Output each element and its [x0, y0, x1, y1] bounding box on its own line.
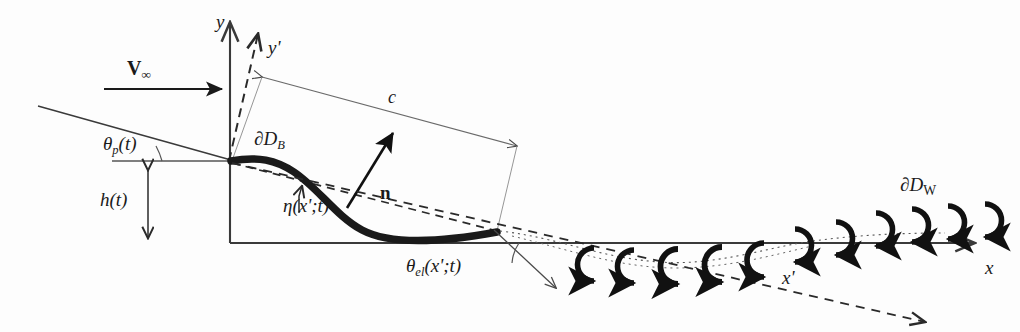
diagram-svg: [0, 0, 1020, 332]
chord-dimension-group: [233, 77, 517, 231]
pitch-angle-arc: [156, 146, 162, 161]
vortex-lower-5: [747, 243, 764, 277]
vortex-lower-4: [705, 247, 722, 282]
wake-centerline-group: [500, 231, 945, 268]
mean-chord-line-group: [232, 163, 497, 231]
x-prime-axis-label: x': [782, 268, 795, 287]
x-axis-label: x: [985, 258, 993, 277]
vortex-lower-3: [660, 249, 678, 284]
chord-length-label: c: [388, 88, 396, 106]
plunge-label: h(t): [100, 190, 127, 209]
body-boundary-label: ∂DB: [254, 129, 285, 152]
normal-vector-label: n: [380, 183, 391, 202]
vortex-lower-2: [618, 250, 635, 283]
pitch-angle-label: θp(t): [103, 134, 137, 157]
elastic-angle-label: θel(x';t): [406, 256, 461, 279]
vortex-upper-5: [948, 206, 965, 239]
global-axes: [230, 22, 975, 243]
chord-extension-trailing: [497, 146, 517, 231]
freestream-velocity-label: V∞: [127, 58, 151, 81]
elastic-angle-group: [494, 230, 556, 288]
elastic-angle-pointer-line: [494, 230, 556, 288]
vortex-upper-3: [876, 213, 893, 246]
vortex-lower-1: [578, 248, 595, 281]
camber-deflection-label: η(x';t): [283, 196, 329, 215]
y-axis-label: y: [216, 12, 224, 31]
y-prime-axis-label: y': [268, 38, 281, 57]
vortex-upper-1: [795, 229, 812, 262]
wake-vortices-upper: [795, 204, 1002, 262]
figure-canvas: y y' V∞ c θp(t) ∂DB n h(t) η(x';t) ∂DW θ…: [0, 0, 1020, 332]
vortex-upper-6: [985, 204, 1002, 237]
wake-boundary-label: ∂DW: [900, 175, 936, 198]
vortex-upper-4: [912, 209, 929, 242]
mean-chord-dashed-line: [232, 163, 497, 231]
